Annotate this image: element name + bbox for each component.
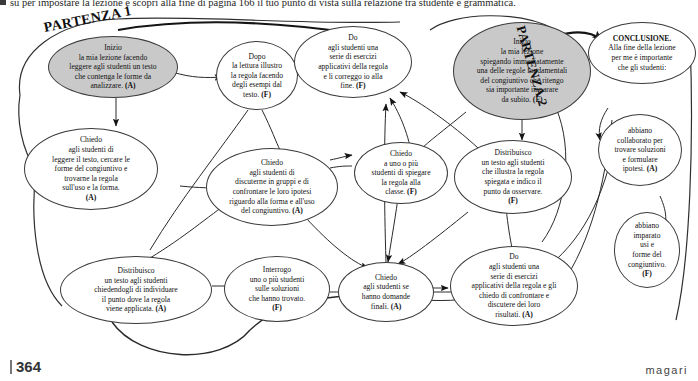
node-conclusione-text: CONCLUSIONE.Alla fine della lezioneper m… (601, 34, 682, 72)
node-abbiano-imparato[interactable]: abbianoimparatousi eforme delcongiuntivo… (614, 212, 680, 288)
node-distribuisco-individuare-text: Distribuiscoun testo agli studentichiede… (87, 266, 185, 314)
node-abbiano-imparato-text: abbianoimparatousi eforme delcongiuntivo… (621, 221, 673, 279)
flowchart-page: su per impostare la lezione e scopri all… (0, 0, 698, 381)
node-dopo-lettura-text: Dopola lettura illustrola regola facendo… (224, 52, 290, 100)
node-chiedo-discuterne-text: Chiedoagli studenti didiscuterne in grup… (222, 158, 321, 216)
node-do-esercizi-confrontare-text: Doagli studenti unaserie di eserciziappl… (465, 252, 564, 319)
node-chiedo-spiegare[interactable]: Chiedoa uno o piùstudenti di spiegarela … (354, 142, 448, 204)
folio-rule (10, 360, 12, 374)
node-distribuisco-individuare[interactable]: Distribuiscoun testo agli studentichiede… (60, 256, 212, 324)
node-chiedo-domande[interactable]: Chiedoagli studenti sehanno domandefinal… (338, 262, 434, 322)
node-interrogo-text: Interrogouno o più studentisulle soluzio… (242, 265, 312, 313)
node-abbiano-collaborato-text: abbianocollaborato pertrovare soluzionie… (607, 126, 672, 174)
node-do-esercizi-correggo[interactable]: Doagli studenti unaserie di eserciziappl… (294, 26, 412, 98)
node-chiedo-leggere[interactable]: Chiedoagli studenti dileggere il testo, … (24, 128, 158, 210)
node-chiedo-domande-text: Chiedoagli studenti sehanno domandefinal… (355, 273, 417, 311)
node-dopo-lettura[interactable]: Dopola lettura illustrola regola facendo… (216, 41, 298, 110)
node-do-esercizi-confrontare[interactable]: Doagli studenti unaserie di eserciziappl… (450, 246, 578, 326)
node-abbiano-collaborato[interactable]: abbianocollaborato pertrovare soluzionie… (598, 114, 682, 186)
page-number: 364 (10, 358, 41, 375)
node-do-esercizi-correggo-text: Doagli studenti unaserie di eserciziappl… (311, 33, 395, 91)
node-chiedo-leggere-text: Chiedoagli studenti dileggere il testo, … (45, 135, 137, 202)
node-chiedo-discuterne[interactable]: Chiedoagli studenti didiscuterne in grup… (206, 148, 338, 226)
node-interrogo[interactable]: Interrogouno o più studentisulle soluzio… (224, 256, 330, 322)
node-chiedo-spiegare-text: Chiedoa uno o piùstudenti di spiegarela … (364, 149, 437, 197)
page-number-value: 364 (16, 358, 41, 375)
node-inizio-1[interactable]: Iniziola mia lezione facendoleggere agli… (48, 36, 178, 98)
brand-wordmark: magari (645, 364, 688, 376)
node-inizio-1-text: Iniziola mia lezione facendoleggere agli… (62, 43, 163, 91)
node-conclusione[interactable]: CONCLUSIONE.Alla fine della lezioneper m… (588, 22, 696, 84)
node-distribuisco-illustra-text: Distribuiscoun testo agli studentiche il… (474, 148, 551, 206)
node-distribuisco-illustra[interactable]: Distribuiscoun testo agli studentiche il… (454, 140, 572, 214)
